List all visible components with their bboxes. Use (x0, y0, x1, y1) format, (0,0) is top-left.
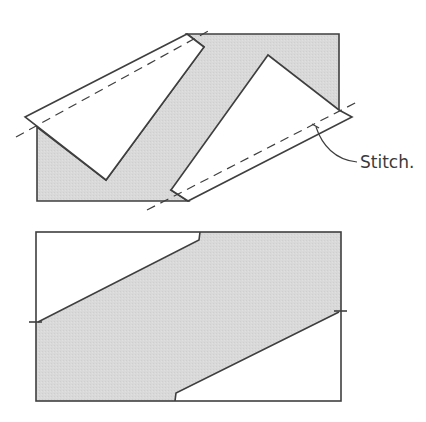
bottom-diagram-finished-block (29, 232, 347, 401)
seam-diagram: Stitch. (0, 0, 426, 422)
stitch-label: Stitch. (360, 152, 414, 172)
top-diagram-fabric-with-flaps: Stitch. (16, 29, 414, 210)
